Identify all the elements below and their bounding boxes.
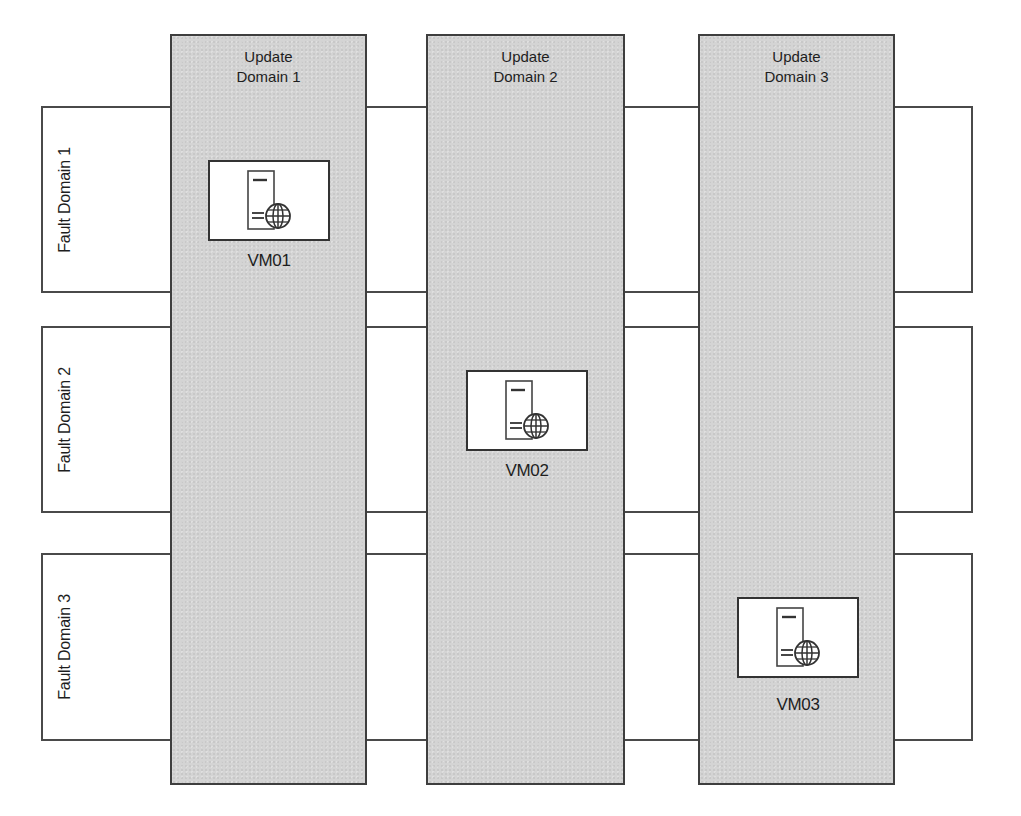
vm01-label: VM01 <box>208 251 330 271</box>
update-domain-3-title: Update Domain 3 <box>700 47 893 87</box>
server-globe-icon <box>775 606 821 670</box>
vm03-label: VM03 <box>737 695 859 715</box>
fault-domain-1-label-container: Fault Domain 1 <box>43 108 87 291</box>
vm01-node <box>208 160 330 241</box>
update-domain-2-title-line2: Domain 2 <box>428 67 623 87</box>
vm02-node <box>466 370 588 451</box>
fault-domain-1-label: Fault Domain 1 <box>56 147 74 253</box>
fault-domain-3-label: Fault Domain 3 <box>56 594 74 700</box>
fault-domain-3-label-container: Fault Domain 3 <box>43 555 87 739</box>
update-domain-1: Update Domain 1 <box>170 34 367 785</box>
fault-domain-2-label: Fault Domain 2 <box>56 367 74 473</box>
update-domain-1-title-line1: Update <box>172 47 365 67</box>
server-globe-icon <box>246 169 292 233</box>
update-domain-2-title-line1: Update <box>428 47 623 67</box>
fault-domain-2-label-container: Fault Domain 2 <box>43 328 87 511</box>
vm02-label: VM02 <box>466 461 588 481</box>
update-domain-2-title: Update Domain 2 <box>428 47 623 87</box>
update-domain-1-title-line2: Domain 1 <box>172 67 365 87</box>
update-domain-1-title: Update Domain 1 <box>172 47 365 87</box>
server-globe-icon <box>504 379 550 443</box>
vm03-node <box>737 597 859 678</box>
update-domain-3-title-line2: Domain 3 <box>700 67 893 87</box>
update-domain-3-title-line1: Update <box>700 47 893 67</box>
